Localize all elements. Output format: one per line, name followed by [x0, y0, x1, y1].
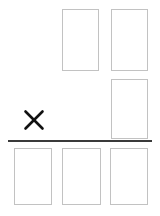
answer-rule [8, 140, 152, 142]
digit-box-product-1[interactable] [14, 148, 52, 205]
digit-box-product-3[interactable] [110, 148, 148, 205]
digit-box-product-2[interactable] [62, 148, 101, 205]
digit-box-multiplicand-2[interactable] [111, 9, 148, 71]
multiplication-sign-icon [24, 110, 44, 130]
digit-box-multiplier-1[interactable] [111, 79, 148, 139]
multiplication-worksheet [0, 0, 160, 216]
digit-box-multiplicand-1[interactable] [62, 9, 99, 71]
